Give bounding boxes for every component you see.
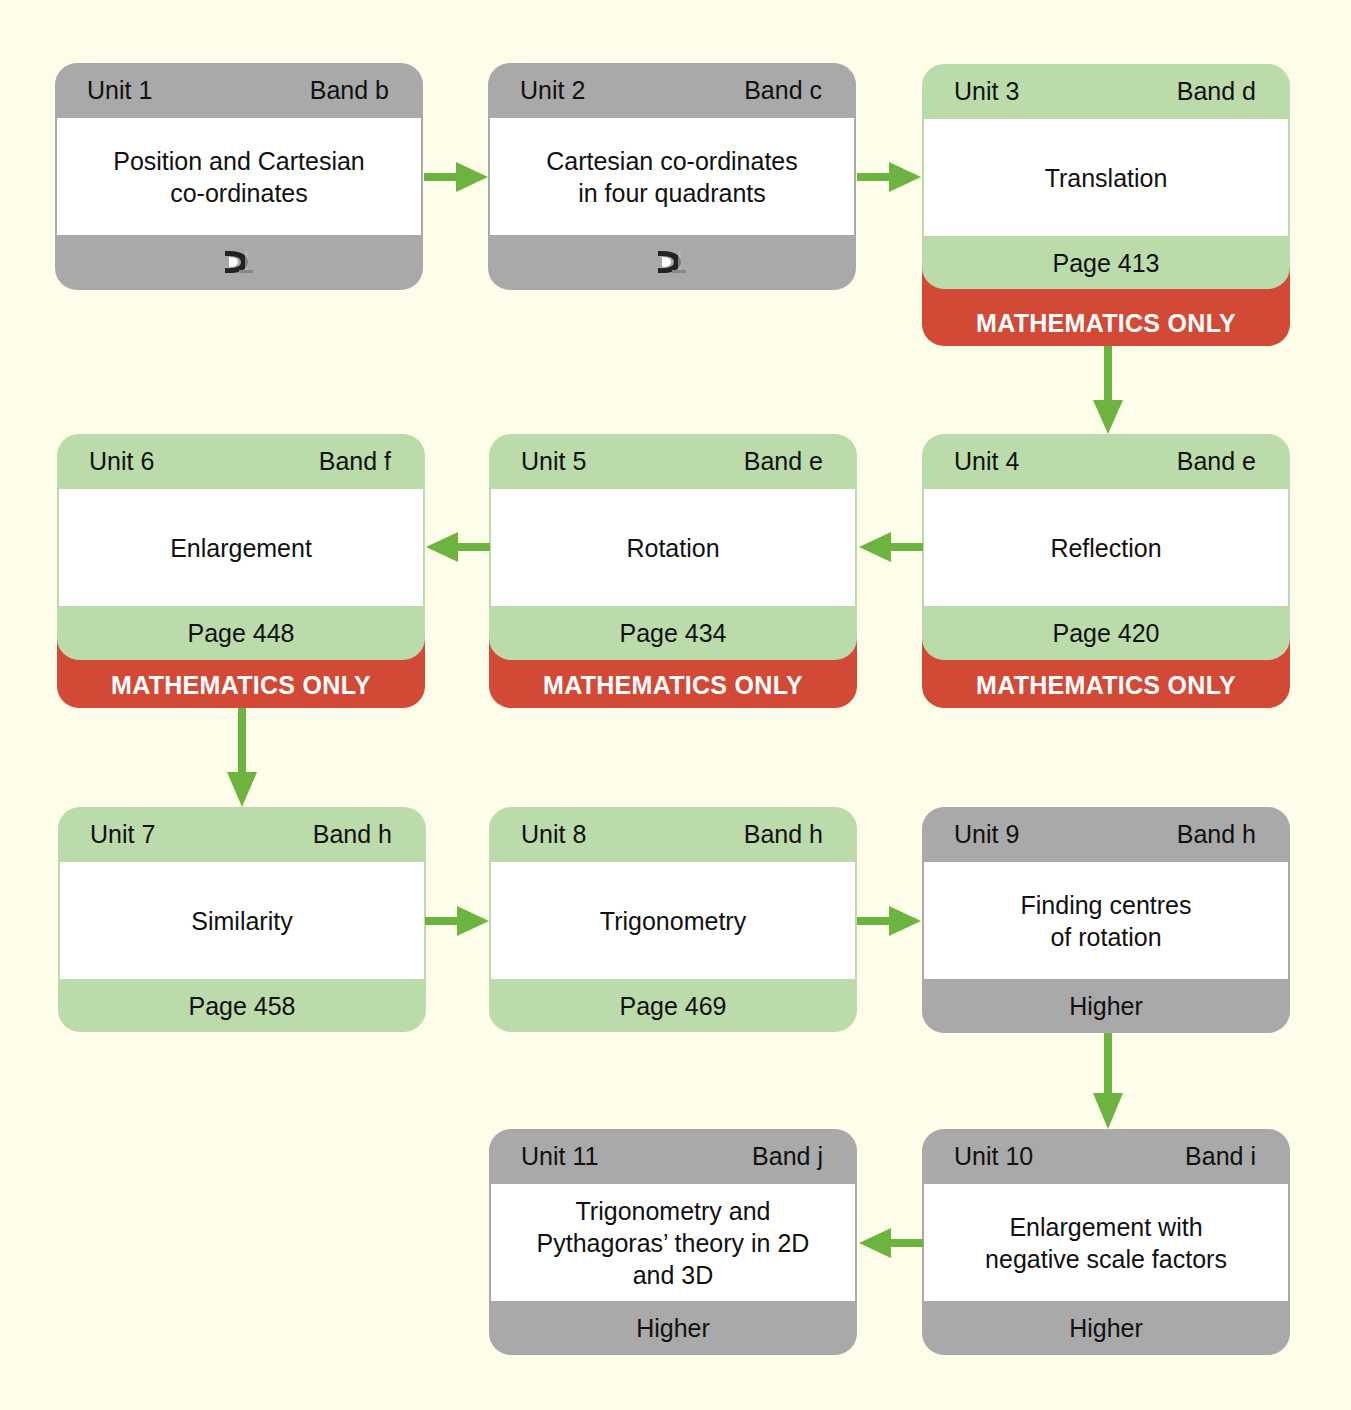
unit-card-1[interactable]: Unit 1 Band b Position and Cartesian co-…	[55, 63, 423, 290]
arrow-left-icon	[857, 1228, 923, 1258]
unit-label: Unit 5	[521, 447, 586, 476]
card-header: Unit 2 Band c	[488, 63, 856, 118]
unit-title: Reflection	[924, 489, 1288, 606]
card-footer	[55, 235, 423, 289]
card-header: Unit 11 Band j	[489, 1129, 857, 1184]
prior-knowledge-icon	[654, 248, 690, 276]
unit-title: Translation	[924, 119, 1288, 236]
card-header: Unit 8 Band h	[489, 807, 857, 862]
unit-card-10[interactable]: Unit 10 Band i Enlargement with negative…	[922, 1129, 1290, 1355]
unit-title: Enlargement with negative scale factors	[924, 1184, 1288, 1301]
arrow-right-icon	[425, 906, 491, 936]
unit-label: Unit 4	[954, 447, 1019, 476]
band-label: Band j	[752, 1142, 823, 1171]
unit-card-5[interactable]: MATHEMATICS ONLY Unit 5 Band e Rotation …	[489, 434, 857, 708]
unit-label: Unit 1	[87, 76, 152, 105]
unit-card-3[interactable]: MATHEMATICS ONLY Unit 3 Band d Translati…	[922, 64, 1290, 346]
unit-title: Cartesian co-ordinates in four quadrants	[490, 118, 854, 235]
unit-card-2[interactable]: Unit 2 Band c Cartesian co-ordinates in …	[488, 63, 856, 290]
card-header: Unit 4 Band e	[922, 434, 1290, 489]
page-reference[interactable]: Page 469	[489, 979, 857, 1032]
card-header: Unit 9 Band h	[922, 807, 1290, 862]
tier-label: Higher	[922, 1301, 1290, 1355]
arrow-left-icon	[424, 532, 490, 562]
card-header: Unit 1 Band b	[55, 63, 423, 118]
unit-card-6[interactable]: MATHEMATICS ONLY Unit 6 Band f Enlargeme…	[57, 434, 425, 708]
band-label: Band e	[1177, 447, 1256, 476]
band-label: Band c	[744, 76, 822, 105]
card-frame: Unit 2 Band c Cartesian co-ordinates in …	[488, 63, 856, 290]
band-label: Band h	[313, 820, 392, 849]
arrow-left-icon	[857, 532, 923, 562]
unit-card-4[interactable]: MATHEMATICS ONLY Unit 4 Band e Reflectio…	[922, 434, 1290, 708]
unit-label: Unit 3	[954, 77, 1019, 106]
page-reference[interactable]: Page 413	[922, 236, 1290, 289]
card-footer	[488, 235, 856, 289]
unit-label: Unit 10	[954, 1142, 1033, 1171]
card-frame: Unit 11 Band j Trigonometry and Pythagor…	[489, 1129, 857, 1355]
band-label: Band d	[1177, 77, 1256, 106]
band-label: Band e	[744, 447, 823, 476]
unit-title: Trigonometry and Pythagoras’ theory in 2…	[491, 1184, 855, 1301]
band-label: Band h	[1177, 820, 1256, 849]
card-frame: Unit 7 Band h Similarity Page 458	[58, 807, 426, 1032]
unit-title: Finding centres of rotation	[924, 862, 1288, 979]
unit-label: Unit 8	[521, 820, 586, 849]
band-label: Band h	[744, 820, 823, 849]
page-reference[interactable]: Page 420	[922, 606, 1290, 660]
card-frame: Unit 1 Band b Position and Cartesian co-…	[55, 63, 423, 290]
unit-card-9[interactable]: Unit 9 Band h Finding centres of rotatio…	[922, 807, 1290, 1033]
unit-card-7[interactable]: Unit 7 Band h Similarity Page 458	[58, 807, 426, 1032]
band-label: Band i	[1185, 1142, 1256, 1171]
unit-label: Unit 6	[89, 447, 154, 476]
card-header: Unit 3 Band d	[922, 64, 1290, 119]
card-frame: Unit 4 Band e Reflection Page 420	[922, 434, 1290, 660]
page-reference[interactable]: Page 448	[57, 606, 425, 660]
card-frame: Unit 5 Band e Rotation Page 434	[489, 434, 857, 660]
unit-label: Unit 11	[521, 1142, 598, 1171]
card-header: Unit 7 Band h	[58, 807, 426, 862]
card-frame: Unit 8 Band h Trigonometry Page 469	[489, 807, 857, 1032]
page-reference[interactable]: Page 458	[58, 979, 426, 1032]
tier-label: Higher	[922, 979, 1290, 1033]
card-frame: Unit 9 Band h Finding centres of rotatio…	[922, 807, 1290, 1033]
unit-label: Unit 9	[954, 820, 1019, 849]
unit-title: Enlargement	[59, 489, 423, 606]
tier-label: Higher	[489, 1301, 857, 1355]
band-label: Band f	[319, 447, 391, 476]
card-frame: Unit 10 Band i Enlargement with negative…	[922, 1129, 1290, 1355]
unit-card-8[interactable]: Unit 8 Band h Trigonometry Page 469	[489, 807, 857, 1032]
unit-title: Trigonometry	[491, 862, 855, 979]
unit-title: Rotation	[491, 489, 855, 606]
card-header: Unit 5 Band e	[489, 434, 857, 489]
page-reference[interactable]: Page 434	[489, 606, 857, 660]
card-header: Unit 10 Band i	[922, 1129, 1290, 1184]
arrow-right-icon	[857, 162, 923, 192]
arrow-down-icon	[227, 708, 257, 807]
card-frame: Unit 6 Band f Enlargement Page 448	[57, 434, 425, 660]
band-label: Band b	[310, 76, 389, 105]
prior-knowledge-icon	[221, 248, 257, 276]
arrow-right-icon	[857, 906, 923, 936]
card-header: Unit 6 Band f	[57, 434, 425, 489]
unit-title: Similarity	[60, 862, 424, 979]
card-frame: Unit 3 Band d Translation Page 413	[922, 64, 1290, 289]
arrow-down-icon	[1093, 346, 1123, 434]
arrow-down-icon	[1093, 1033, 1123, 1129]
unit-title: Position and Cartesian co-ordinates	[57, 118, 421, 235]
unit-label: Unit 2	[520, 76, 585, 105]
unit-label: Unit 7	[90, 820, 155, 849]
unit-card-11[interactable]: Unit 11 Band j Trigonometry and Pythagor…	[489, 1129, 857, 1355]
arrow-right-icon	[424, 162, 490, 192]
